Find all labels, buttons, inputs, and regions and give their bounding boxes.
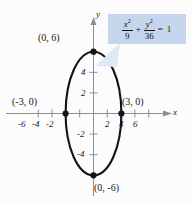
ellipse-equation: x2 9 + y2 36 = 1 [121,18,174,41]
point-dot-right [118,110,124,116]
fraction-x-numerator: x2 [122,18,133,31]
fraction-x-term: x2 9 [122,18,133,41]
x-tick-label-neg4: -4 [32,120,40,129]
point-label-left-covertex: (-3, 0) [12,97,37,107]
fraction-y-denominator: 36 [145,31,154,41]
y-tick-label-2: 2 [81,89,86,98]
x-tick-label-6: 6 [133,120,138,129]
plus-operator: + [136,24,141,34]
x-tick-label-neg6: -6 [18,120,26,129]
ellipse-figure: x2 9 + y2 36 = 1 x y -6 -4 -2 2 4 6 4 2 … [0,0,192,204]
y-tick-label-4: 4 [81,68,86,77]
point-dot-bottom [90,172,96,178]
x-tick-label-neg2: -2 [46,120,54,129]
point-label-right-covertex: (3, 0) [122,97,144,107]
x-tick-label-2: 2 [105,120,110,129]
y-tick-label-neg4: -4 [77,150,85,159]
equals-operator: = [158,24,163,34]
point-label-top-vertex: (0, 6) [38,33,60,43]
fraction-y-term: y2 36 [144,18,155,41]
x-axis-arrowhead [163,111,172,117]
equation-callout: x2 9 + y2 36 = 1 [108,14,186,44]
y-tick-label-neg2: -2 [77,130,85,139]
point-label-bottom-vertex: (0, -6) [94,183,119,193]
y-axis-label: y [96,10,100,19]
fraction-y-numerator: y2 [144,18,155,31]
point-dot-left [63,110,69,116]
fraction-x-denominator: 9 [125,31,130,41]
x-axis-label: x [173,108,177,117]
callout-tail [95,42,121,68]
x-tick-label-4: 4 [119,120,124,129]
equation-rhs: 1 [167,24,172,34]
